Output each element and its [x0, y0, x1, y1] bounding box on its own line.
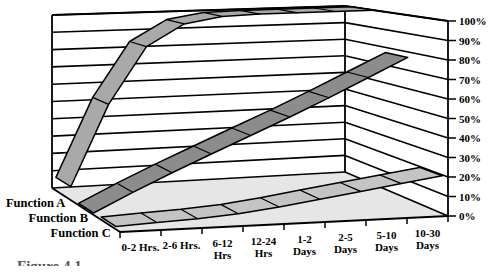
value-axis-label: 70% [459, 74, 481, 86]
category-label: 1-2 [297, 233, 312, 245]
category-label: Hrs [214, 249, 232, 261]
category-label: Days [375, 241, 399, 253]
value-axis-label: 100% [459, 15, 487, 27]
figure-caption-text: Figure 4.1 [17, 259, 82, 266]
series-label-function-b: Function B [29, 211, 88, 225]
page: 0%10%20%30%40%50%60%70%80%90%100%0-2 Hrs… [0, 0, 489, 274]
category-label: Days [334, 243, 358, 255]
value-axis-label: 30% [459, 152, 481, 164]
category-label: 12-24 [251, 235, 277, 247]
value-axis-label: 10% [459, 191, 481, 203]
value-axis-label: 80% [459, 54, 481, 66]
category-label: 6-12 [212, 237, 233, 249]
value-axis-label: 90% [459, 35, 481, 47]
series-label-function-a: Function A [6, 196, 65, 210]
category-label: Days [416, 239, 440, 251]
category-label: 2-5 [338, 231, 353, 243]
category-label: 10-30 [415, 227, 441, 239]
value-axis-label: 60% [459, 93, 481, 105]
value-axis-label: 0% [459, 210, 476, 222]
chart-svg: 0%10%20%30%40%50%60%70%80%90%100%0-2 Hrs… [0, 0, 489, 274]
value-axis-label: 40% [459, 132, 481, 144]
category-label: 5-10 [376, 229, 397, 241]
figure-caption: Figure 4.1 [17, 259, 157, 266]
series-label-function-c: Function C [51, 226, 111, 240]
category-label: Hrs [255, 247, 273, 259]
category-label: 0-2 Hrs. [122, 241, 160, 253]
category-label: Days [293, 245, 317, 257]
category-label: 2-6 Hrs. [163, 239, 201, 251]
ribbon-chart-3d: 0%10%20%30%40%50%60%70%80%90%100%0-2 Hrs… [0, 0, 489, 274]
value-axis-label: 20% [459, 171, 481, 183]
value-axis-label: 50% [459, 113, 481, 125]
